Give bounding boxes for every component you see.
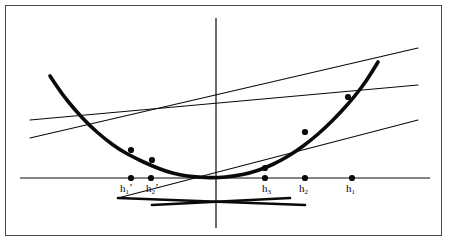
plot-svg (0, 0, 449, 246)
marker-h3-label: h3 (262, 183, 271, 194)
marker-h3-dot (262, 175, 268, 181)
curve-point-h1 (345, 94, 351, 100)
curve-point-h2prime (149, 157, 155, 163)
marker-h1prime-label: h1’ (120, 183, 133, 194)
marker-h2prime-label: h2’ (146, 183, 159, 194)
axes-group (20, 18, 430, 228)
marker-h2prime-dot (148, 175, 154, 181)
curve-point-h1prime (128, 147, 134, 153)
figure-container: h1’h2’h3h2h1 (0, 0, 449, 246)
marker-h2-dot (302, 175, 308, 181)
marker-h1-label: h1 (346, 183, 355, 194)
marker-h2-label: h2 (299, 183, 308, 194)
curve-point-h3 (262, 165, 268, 171)
parabola-curve (50, 62, 378, 178)
secant-lines-group (30, 48, 418, 205)
marker-h1-dot (349, 175, 355, 181)
curve-point-h2 (302, 129, 308, 135)
